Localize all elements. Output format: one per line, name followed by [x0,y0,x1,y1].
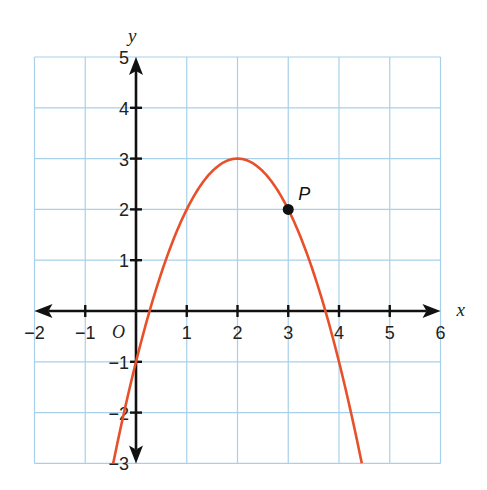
x-tick-label: 3 [283,323,293,343]
parabola-chart: −2−1123456−3−2−112345 P x y O [0,0,487,490]
y-tick-label: 5 [119,48,129,68]
x-tick-label: 2 [232,323,242,343]
x-tick-label: 5 [385,323,395,343]
point-p-marker [283,204,294,215]
x-tick-label: 4 [334,323,344,343]
y-axis-label: y [126,25,137,46]
origin-label: O [112,322,125,342]
x-tick-label: −1 [75,323,96,343]
x-tick-label: 1 [182,323,192,343]
tick-labels: −2−1123456−3−2−112345 [24,48,445,474]
y-tick-label: −3 [108,454,129,474]
y-tick-label: 4 [119,99,129,119]
point-p-label: P [298,184,310,204]
y-tick-label: 1 [119,251,129,271]
x-tick-label: −2 [24,323,45,343]
grid-lines [35,57,441,463]
y-tick-label: 2 [119,200,129,220]
x-tick-label: 6 [435,323,445,343]
y-tick-label: −1 [108,353,129,373]
y-tick-label: 3 [119,150,129,170]
x-axis-label: x [456,299,466,320]
